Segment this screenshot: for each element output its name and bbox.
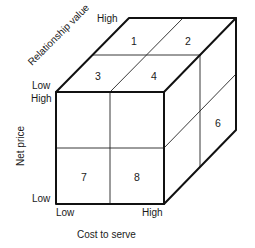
cell-3: 3 <box>95 70 101 82</box>
cell-1: 1 <box>131 35 137 47</box>
relationship-value-low: Low <box>32 80 51 91</box>
net-price-low: Low <box>32 193 51 204</box>
cell-8: 8 <box>134 171 140 183</box>
cost-to-serve-low: Low <box>56 207 75 218</box>
cell-2: 2 <box>185 35 191 47</box>
cube-diagram: 1 2 3 4 6 7 8 Relationship value High Lo… <box>0 0 255 248</box>
cell-4: 4 <box>151 70 157 82</box>
axis-label-relationship-value: Relationship value <box>26 2 92 68</box>
relationship-value-high: High <box>97 13 118 24</box>
net-price-high: High <box>31 93 52 104</box>
cost-to-serve-high: High <box>142 207 163 218</box>
cell-6: 6 <box>215 117 221 129</box>
axis-label-net-price: Net price <box>15 126 26 166</box>
cell-7: 7 <box>81 171 87 183</box>
axis-label-cost-to-serve: Cost to serve <box>77 229 136 240</box>
